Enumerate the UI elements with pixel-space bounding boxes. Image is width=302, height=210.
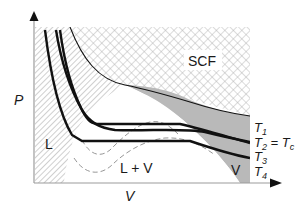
two-phase-label: L + V bbox=[120, 160, 153, 176]
label-t4: T4 bbox=[254, 164, 267, 181]
y-axis-label: P bbox=[14, 92, 24, 108]
liquid-label: L bbox=[45, 136, 53, 152]
x-axis-label: V bbox=[125, 188, 136, 204]
x-axis-arrow-icon bbox=[270, 179, 282, 188]
pv-phase-diagram: P V SCF L L + V V T1 T2 = Tc T3 T4 bbox=[0, 0, 302, 210]
vapor-label: V bbox=[231, 162, 241, 178]
isotherm-labels: T1 T2 = Tc T3 T4 bbox=[254, 120, 295, 181]
scf-label: SCF bbox=[188, 53, 216, 69]
y-axis-arrow-icon bbox=[30, 11, 39, 21]
